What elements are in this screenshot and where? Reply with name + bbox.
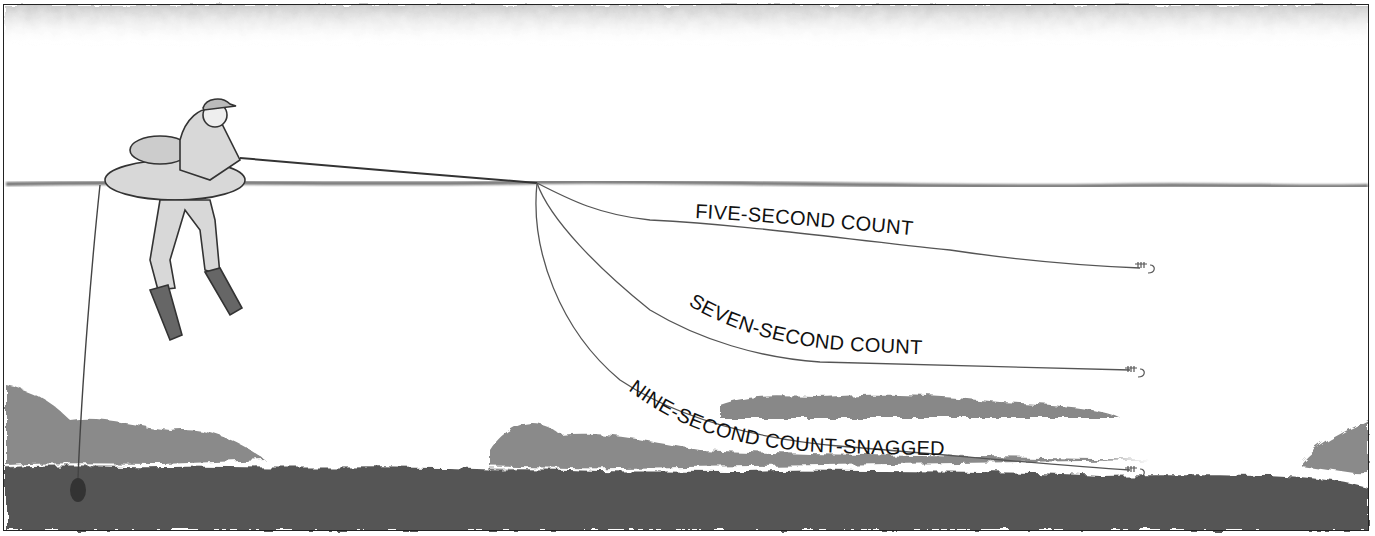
- illustration-border: [3, 4, 1369, 531]
- illustration-canvas: FIVE-SECOND COUNT SEVEN-SECOND COUNT NIN…: [0, 0, 1375, 536]
